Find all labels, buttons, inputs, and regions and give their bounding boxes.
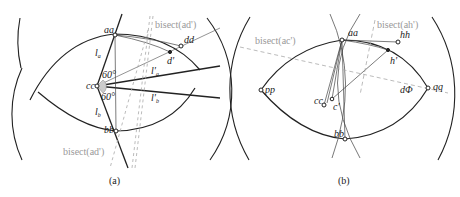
- label-aa-b: aa: [348, 27, 358, 38]
- label-lpa: l'a: [151, 65, 159, 77]
- panel-a: [12, 14, 232, 168]
- label-lb: lb: [95, 106, 101, 118]
- label-bb: bb: [104, 124, 114, 135]
- point-cc: [95, 84, 99, 88]
- label-la: la: [95, 47, 101, 59]
- label-c-prime: c': [333, 101, 340, 112]
- label-bisect-bottom: bisect(ad'): [63, 146, 104, 158]
- label-dd: dd: [184, 34, 195, 45]
- label-bb-b: bb: [334, 128, 344, 139]
- label-qq: qq: [433, 81, 443, 92]
- label-bisect-ac: bisect(ac'): [255, 35, 296, 47]
- point-dd: [179, 44, 183, 48]
- point-qq: [426, 86, 430, 90]
- label-hh: hh: [400, 29, 410, 40]
- label-dphi: dΦ: [400, 84, 413, 95]
- left-circle-arc: [12, 68, 22, 160]
- point-bb: [114, 129, 118, 133]
- main-circle-lower: [38, 88, 195, 131]
- panel-a-labels: aa dd d' cc bb la lb l'a l'b 60° 60° bis…: [63, 19, 196, 187]
- point-h-prime: [386, 48, 389, 51]
- angle-bottom: 60°: [101, 91, 115, 102]
- label-bisect-top: bisect(ad'): [155, 19, 196, 31]
- point-aa-b: [340, 38, 344, 42]
- label-bisect-ah: bisect(ah'): [377, 19, 418, 31]
- angle-top: 60°: [102, 69, 116, 80]
- point-d-prime: [168, 50, 171, 53]
- label-aa: aa: [104, 24, 114, 35]
- figure: aa dd d' cc bb la lb l'a l'b 60° 60° bis…: [0, 0, 460, 197]
- panel-b-labels: aa hh h' pp qq dΦ cc c' bb bisect(ah') b…: [255, 19, 443, 187]
- point-pp: [259, 88, 263, 92]
- label-cc: cc: [86, 80, 95, 91]
- caption-b: (b): [338, 175, 350, 187]
- label-pp: pp: [264, 84, 275, 95]
- label-cc-b: cc: [314, 95, 323, 106]
- caption-a: (a): [109, 175, 120, 187]
- line-ab: [115, 35, 116, 131]
- label-d-prime: d': [167, 55, 175, 66]
- right-circle-arc: [207, 18, 232, 160]
- label-h-prime: h': [390, 55, 398, 66]
- left-circle-arc-b: [230, 17, 250, 160]
- label-lpb: l'b: [151, 92, 159, 104]
- point-hh: [396, 40, 400, 44]
